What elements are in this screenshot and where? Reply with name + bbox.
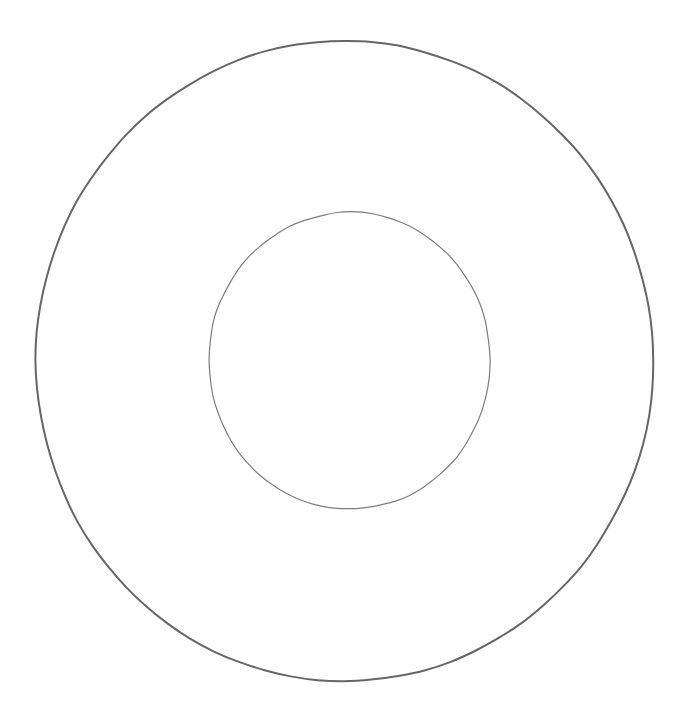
- diagram-canvas: [0, 0, 687, 719]
- canvas-background: [0, 0, 687, 719]
- concentric-circles-figure: [0, 0, 687, 719]
